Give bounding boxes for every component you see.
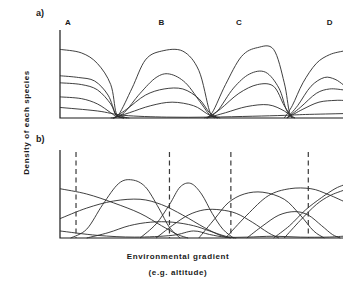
species-response-curve <box>60 107 343 117</box>
species-response-curve <box>247 212 340 238</box>
plot-canvas <box>0 0 356 288</box>
panel-a-axes <box>60 30 343 118</box>
species-response-curve <box>284 51 343 118</box>
panel-b-plot <box>60 150 343 238</box>
panel-a-plot <box>60 30 343 118</box>
species-response-curve <box>60 199 231 238</box>
species-response-curve <box>204 46 295 118</box>
species-response-curve <box>60 97 124 118</box>
species-response-curve <box>71 180 180 238</box>
figure-container: a) b) Density of each species Environmen… <box>0 0 356 288</box>
species-response-curve <box>207 71 295 118</box>
species-response-curve <box>60 76 129 118</box>
panel-a-curves <box>60 46 343 118</box>
species-response-curve <box>140 183 233 238</box>
species-response-curve <box>60 83 124 118</box>
panel-b-curves <box>60 180 343 238</box>
